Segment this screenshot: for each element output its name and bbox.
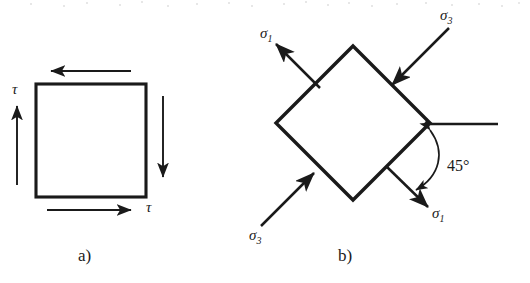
angle-label-45: 45° [447, 158, 469, 174]
angle-arc-45 [416, 130, 439, 190]
panel-b-caption: b) [338, 247, 352, 264]
tau-label-bottom: τ [146, 200, 151, 215]
sigma3-arrow-upper-right [392, 28, 449, 85]
figure-root: τ τ a) σ1 σ1 σ3 σ3 45° b) [0, 0, 530, 283]
panel-a-group [17, 71, 163, 210]
sigma3-label-lower-left: σ3 [249, 228, 261, 246]
sigma3-label-upper-right: σ3 [440, 8, 452, 26]
sigma1-label-upper-left: σ1 [260, 26, 272, 44]
panel-b-group [261, 28, 498, 226]
sigma1-arrow-upper-left [276, 44, 320, 88]
tau-label-left: τ [12, 82, 17, 97]
panel-a-caption: a) [78, 247, 91, 264]
sigma1-label-lower-right: σ1 [432, 206, 444, 224]
sigma3-arrow-lower-left [261, 173, 314, 226]
shear-square [36, 84, 146, 197]
